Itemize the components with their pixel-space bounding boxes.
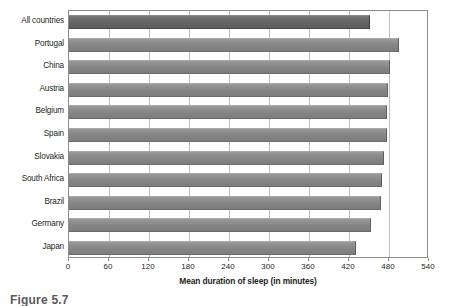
y-axis-category-labels: All countriesPortugalChinaAustriaBelgium…: [0, 10, 64, 258]
bar-slovakia: [69, 151, 384, 165]
x-tick-label-120: 120: [141, 261, 154, 272]
bar-row: [69, 173, 427, 187]
bar-japan: [69, 241, 356, 255]
bar-portugal: [69, 38, 399, 52]
category-label-south-africa: South Africa: [0, 174, 64, 183]
category-label-portugal: Portugal: [0, 39, 64, 48]
x-tick-label-240: 240: [221, 261, 234, 272]
x-tick-label-0: 0: [66, 261, 70, 272]
bar-rows: [69, 11, 427, 257]
bar-row: [69, 151, 427, 165]
bar-row: [69, 60, 427, 74]
x-tick-label-360: 360: [301, 261, 314, 272]
category-label-austria: Austria: [0, 84, 64, 93]
plot-area: [68, 10, 428, 258]
category-label-japan: Japan: [0, 242, 64, 251]
bar-all-countries: [69, 15, 370, 29]
bar-row: [69, 105, 427, 119]
bar-south-africa: [69, 173, 382, 187]
bar-germany: [69, 218, 371, 232]
bar-china: [69, 60, 390, 74]
bar-row: [69, 15, 427, 29]
bar-row: [69, 241, 427, 255]
category-label-belgium: Belgium: [0, 106, 64, 115]
bar-belgium: [69, 105, 387, 119]
bar-spain: [69, 128, 387, 142]
x-tick-label-60: 60: [104, 261, 113, 272]
bar-row: [69, 83, 427, 97]
x-tick-label-180: 180: [181, 261, 194, 272]
bar-austria: [69, 83, 388, 97]
category-label-china: China: [0, 61, 64, 70]
category-label-slovakia: Slovakia: [0, 152, 64, 161]
bar-row: [69, 128, 427, 142]
category-label-brazil: Brazil: [0, 197, 64, 206]
figure-container: All countriesPortugalChinaAustriaBelgium…: [0, 0, 449, 306]
bar-row: [69, 38, 427, 52]
bar-row: [69, 196, 427, 210]
bar-row: [69, 218, 427, 232]
category-label-spain: Spain: [0, 129, 64, 138]
category-label-germany: Germany: [0, 219, 64, 228]
x-tick-label-300: 300: [261, 261, 274, 272]
x-tick-label-480: 480: [381, 261, 394, 272]
x-axis-tick-labels: 060120180240300360420480540: [68, 261, 428, 273]
bar-brazil: [69, 196, 381, 210]
x-tick-label-540: 540: [421, 261, 434, 272]
figure-caption: Figure 5.7: [10, 293, 69, 306]
x-tick-label-420: 420: [341, 261, 354, 272]
category-label-all-countries: All countries: [0, 16, 64, 25]
x-axis-title: Mean duration of sleep (in minutes): [68, 276, 428, 286]
